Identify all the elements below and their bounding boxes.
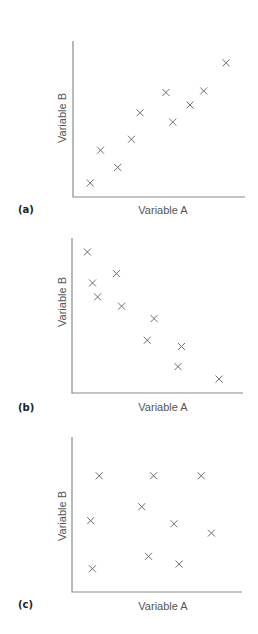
data-point-x-marker	[96, 472, 103, 479]
panel-label: (c)	[18, 599, 33, 610]
data-point-x-marker	[176, 561, 183, 568]
data-point-x-marker	[145, 553, 152, 560]
y-axis-label: Variable B	[56, 491, 68, 541]
scatter-plot-c	[0, 0, 258, 634]
data-point-x-marker	[138, 503, 145, 510]
data-point-x-marker	[87, 517, 94, 524]
data-point-x-marker	[89, 565, 96, 572]
x-axis-label: Variable A	[138, 600, 187, 612]
axes	[72, 437, 242, 592]
scatter-panel-c: Variable B Variable A (c)	[0, 0, 258, 634]
data-point-x-marker	[171, 520, 178, 527]
data-point-x-marker	[150, 472, 157, 479]
data-point-x-marker	[198, 472, 205, 479]
data-point-x-marker	[208, 530, 215, 537]
